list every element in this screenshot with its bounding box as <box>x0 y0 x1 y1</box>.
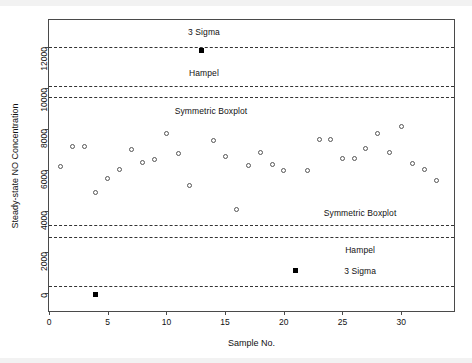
data-point-inliers <box>176 151 181 156</box>
data-point-inliers <box>234 207 239 212</box>
data-point-outliers <box>93 292 98 297</box>
data-point-inliers <box>246 163 251 168</box>
plot-area: 0200040006000800010000120000510152025303… <box>48 19 455 312</box>
data-point-inliers <box>399 124 404 129</box>
scan-edge-top <box>0 0 472 6</box>
scan-edge-bottom <box>0 358 472 363</box>
y-axis-tick-label-text: 8000 <box>39 129 49 148</box>
data-point-outliers <box>199 48 204 53</box>
x-axis-tick-label: 25 <box>338 317 347 327</box>
y-axis-tick-label-text: 6000 <box>39 170 49 189</box>
data-point-inliers <box>352 156 357 161</box>
data-point-inliers <box>387 150 392 155</box>
data-point-inliers <box>105 176 110 181</box>
data-point-inliers <box>187 183 192 188</box>
data-point-inliers <box>117 167 122 172</box>
data-point-inliers <box>70 144 75 149</box>
chart-figure: Steady-state NO Concentration 0200040006… <box>0 0 472 363</box>
data-point-inliers <box>140 160 145 165</box>
data-point-inliers <box>258 150 263 155</box>
data-point-inliers <box>211 138 216 143</box>
data-point-inliers <box>363 146 368 151</box>
x-axis-tick-label: 30 <box>396 317 405 327</box>
x-axis-tick <box>225 311 226 315</box>
data-point-inliers <box>281 168 286 173</box>
annotation-label: Hampel <box>345 245 375 255</box>
x-axis-title-text: Sample No. <box>228 338 275 348</box>
y-axis-title-text: Steady-state NO Concentration <box>10 103 20 228</box>
y-axis-tick-label-text: 0 <box>39 293 49 298</box>
reference-line-3-sigma-lower <box>49 286 454 287</box>
reference-line-hampel-lower <box>49 237 454 238</box>
x-axis-title: Sample No. <box>48 338 455 348</box>
reference-line-hampel-upper <box>49 86 454 87</box>
x-axis-tick <box>342 311 343 315</box>
data-point-inliers <box>58 164 63 169</box>
data-point-inliers <box>129 147 134 152</box>
x-axis-tick <box>108 311 109 315</box>
x-axis-tick-label: 15 <box>220 317 229 327</box>
data-point-inliers <box>82 144 87 149</box>
annotation-label: Symmetric Boxplot <box>175 106 248 116</box>
data-point-inliers <box>305 168 310 173</box>
x-axis-tick <box>166 311 167 315</box>
data-point-inliers <box>223 154 228 159</box>
x-axis-tick <box>49 311 50 315</box>
data-point-inliers <box>375 131 380 136</box>
y-axis-tick-label-text: 2000 <box>39 252 49 271</box>
data-point-inliers <box>317 137 322 142</box>
y-axis-tick-label-text: 12000 <box>39 47 49 71</box>
data-point-inliers <box>340 156 345 161</box>
data-point-inliers <box>328 137 333 142</box>
x-axis-tick-label: 0 <box>47 317 52 327</box>
annotation-label: 3 Sigma <box>344 266 376 276</box>
x-axis-tick <box>401 311 402 315</box>
data-point-inliers <box>93 190 98 195</box>
y-axis-title: Steady-state NO Concentration <box>8 19 22 312</box>
data-point-inliers <box>410 161 415 166</box>
x-axis-tick-label: 20 <box>279 317 288 327</box>
annotation-label: Hampel <box>189 68 219 78</box>
data-point-inliers <box>422 167 427 172</box>
data-point-inliers <box>434 178 439 183</box>
x-axis-tick-label: 5 <box>105 317 110 327</box>
x-axis-tick-label: 10 <box>162 317 171 327</box>
data-point-inliers <box>270 162 275 167</box>
data-point-inliers <box>164 131 169 136</box>
data-point-outliers <box>293 268 298 273</box>
annotation-label: Symmetric Boxplot <box>324 208 397 218</box>
reference-line-symmetric-boxplot-lower <box>49 225 454 226</box>
reference-line-symmetric-boxplot-upper <box>49 97 454 98</box>
x-axis-tick <box>284 311 285 315</box>
data-point-inliers <box>152 157 157 162</box>
reference-line-3-sigma-upper <box>49 47 454 48</box>
y-axis-tick-label-text: 10000 <box>39 88 49 112</box>
y-axis-tick-label-text: 4000 <box>39 211 49 230</box>
annotation-label: 3 Sigma <box>188 27 220 37</box>
